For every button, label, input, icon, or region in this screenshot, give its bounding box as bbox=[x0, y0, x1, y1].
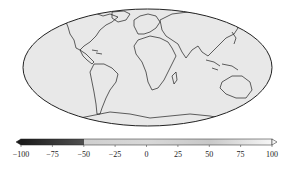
colorbar-gradient bbox=[21, 139, 272, 145]
colorbar-tick-label: −100 bbox=[13, 150, 30, 159]
colorbar-tick-label: 75 bbox=[237, 150, 245, 159]
colorbar-tick-label: −75 bbox=[46, 150, 59, 159]
colorbar-ticks bbox=[21, 145, 272, 147]
colorbar-tick-label: 25 bbox=[174, 150, 182, 159]
world-map bbox=[0, 0, 292, 135]
colorbar-tick-label: 0 bbox=[145, 150, 149, 159]
colorbar-extend-high bbox=[272, 139, 277, 145]
colorbar-tick-label: 50 bbox=[205, 150, 213, 159]
colorbar-tick-label: −50 bbox=[78, 150, 91, 159]
colorbar-tick-label: −25 bbox=[109, 150, 122, 159]
colorbar-tick-label: 100 bbox=[266, 150, 278, 159]
colorbar-extend-low bbox=[16, 139, 21, 145]
